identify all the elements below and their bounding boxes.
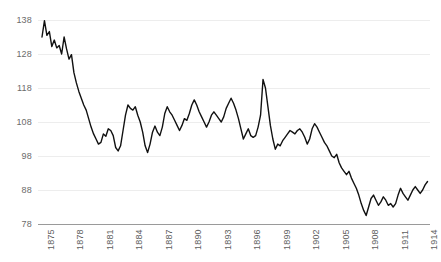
x-tick-1902: 1902 <box>311 229 321 250</box>
y-tick-88: 88 <box>6 185 32 195</box>
x-tick-1884: 1884 <box>134 229 144 250</box>
y-tick-78: 78 <box>6 219 32 229</box>
x-tick-1878: 1878 <box>75 229 85 250</box>
line-chart-plot <box>0 0 441 262</box>
x-tick-1899: 1899 <box>282 229 292 250</box>
x-tick-1908: 1908 <box>370 229 380 250</box>
x-tick-1914: 1914 <box>429 229 439 250</box>
x-tick-1890: 1890 <box>193 229 203 250</box>
y-tick-118: 118 <box>6 83 32 93</box>
series-line-index <box>42 21 428 216</box>
y-tick-98: 98 <box>6 151 32 161</box>
y-tick-128: 128 <box>6 49 32 59</box>
chart-container: 788898108118128138 187518781881188418871… <box>0 0 441 262</box>
x-tick-1875: 1875 <box>46 229 56 250</box>
gridlines-group <box>38 20 430 224</box>
x-tick-1911: 1911 <box>400 230 410 250</box>
x-tick-1893: 1893 <box>223 229 233 250</box>
y-tick-108: 108 <box>6 117 32 127</box>
series-group <box>42 21 428 216</box>
x-tick-1881: 1881 <box>105 229 115 250</box>
x-tick-1905: 1905 <box>341 229 351 250</box>
x-tick-1887: 1887 <box>164 229 174 250</box>
x-tick-1896: 1896 <box>252 229 262 250</box>
y-tick-138: 138 <box>6 15 32 25</box>
